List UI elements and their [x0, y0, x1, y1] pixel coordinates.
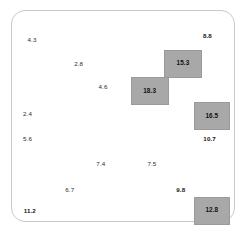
- chart-panel: 4.38.82.84.62.45.610.77.47.56.79.811.215…: [11, 10, 235, 222]
- data-point-label: 10.7: [203, 136, 215, 142]
- highlighted-cell-label: 18.3: [143, 88, 156, 94]
- scatter-plot-area: 4.38.82.84.62.45.610.77.47.56.79.811.215…: [12, 11, 234, 221]
- highlighted-cell[interactable]: 16.5: [194, 102, 230, 130]
- highlighted-cell[interactable]: 12.8: [194, 197, 230, 225]
- highlighted-cell[interactable]: 15.3: [164, 50, 202, 78]
- data-point-label: 7.5: [147, 161, 156, 167]
- data-point-label: 5.6: [23, 136, 32, 142]
- data-point-label: 6.7: [65, 186, 74, 192]
- data-point-label: 2.4: [23, 111, 32, 117]
- data-point-label: 8.8: [203, 33, 212, 39]
- highlighted-cell[interactable]: 18.3: [131, 77, 169, 105]
- highlighted-cell-label: 16.5: [205, 113, 218, 119]
- data-point-label: 4.3: [28, 37, 37, 43]
- data-point-label: 9.8: [176, 186, 185, 192]
- data-point-label: 7.4: [96, 161, 105, 167]
- highlighted-cell-label: 15.3: [177, 60, 190, 66]
- data-point-label: 11.2: [24, 207, 36, 213]
- highlighted-cell-label: 12.8: [205, 207, 218, 213]
- data-point-label: 4.6: [99, 83, 108, 89]
- data-point-label: 2.8: [74, 60, 83, 66]
- screenshot-root: 4.38.82.84.62.45.610.77.47.56.79.811.215…: [0, 0, 247, 232]
